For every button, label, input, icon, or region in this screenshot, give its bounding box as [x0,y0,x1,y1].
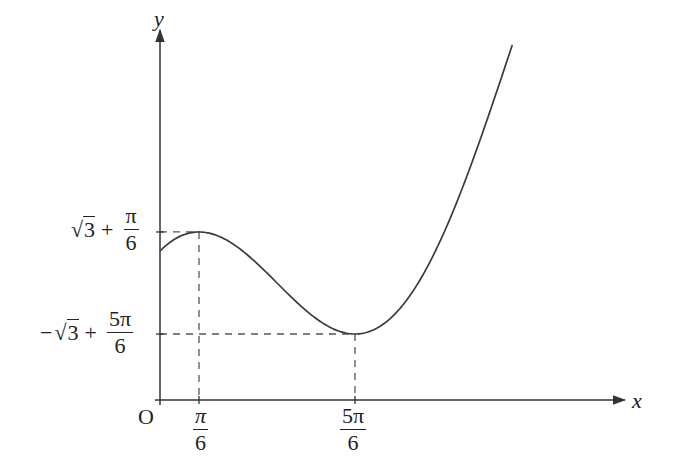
minus-sign: − [40,322,52,344]
y-tick-denominator: 6 [114,333,125,357]
x-tick-denominator: 6 [348,430,359,454]
y-axis-label: y [154,8,164,30]
y-tick-numerator: 5π [107,308,133,333]
sqrt-3: √3 [54,322,78,344]
y-tick-label-local-min: − √3 + 5π 6 [40,308,133,357]
plus-sign: + [85,322,97,344]
y-tick-numerator: π [124,205,139,230]
x-tick-denominator: 6 [195,430,206,454]
x-tick-label-pi-over-6: π 6 [189,405,208,454]
x-axis-label: x [632,390,642,412]
x-tick-label-5pi-over-6: 5π 6 [336,405,366,454]
plus-sign: + [101,219,113,241]
dashed-guides [160,232,355,400]
function-curve [160,45,512,334]
origin-label: O [138,406,154,428]
tick-marks [156,232,355,404]
x-tick-numerator: 5π [340,405,366,430]
x-tick-numerator: π [193,405,208,430]
y-tick-label-local-max: √3 + π 6 [71,205,139,254]
sqrt-3: √3 [71,219,95,241]
y-tick-denominator: 6 [126,230,137,254]
